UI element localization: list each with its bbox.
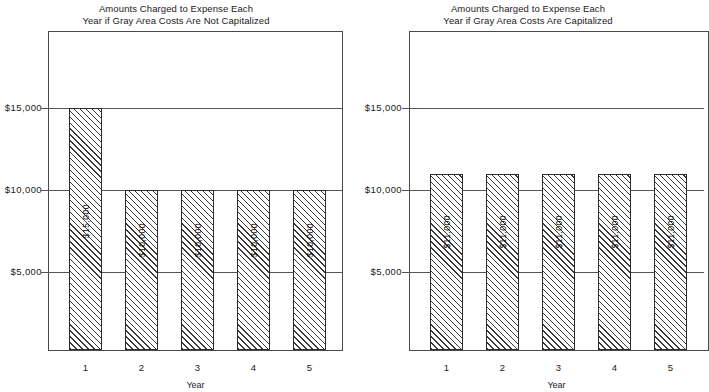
chart-title-right: Amounts Charged to Expense Each Year if … <box>352 3 704 27</box>
y-tick-mark-15000-left <box>41 108 48 109</box>
bar-value-label-year-1-right: $11,000 <box>442 215 452 249</box>
x-tick-label-2-right: 2 <box>482 363 523 373</box>
chart-panel-capitalized: Amounts Charged to Expense Each Year if … <box>352 0 704 392</box>
bar-year-4-right: $11,000 <box>598 174 631 350</box>
y-tick-label-15000-right: $15,000 <box>360 103 402 113</box>
y-tick-mark-15000-right <box>402 108 409 109</box>
bar-year-4-left: $10,000 <box>237 190 270 350</box>
bar-year-2-left: $10,000 <box>125 190 158 350</box>
x-tick-label-4-right: 4 <box>594 363 635 373</box>
y-tick-label-10000-left: $10,000 <box>0 185 42 195</box>
x-tick-label-1-left: 1 <box>65 363 106 373</box>
bar-year-3-right: $11,000 <box>542 174 575 350</box>
y-tick-mark-10000-right <box>402 190 409 191</box>
x-axis-title-right: Year <box>409 380 704 390</box>
x-tick-label-5-right: 5 <box>650 363 691 373</box>
bar-year-5-right: $11,000 <box>654 174 687 350</box>
x-tick-label-2-left: 2 <box>121 363 162 373</box>
chart-title-right-line2: Year if Gray Area Costs Are Capitalized <box>352 15 704 27</box>
x-axis-title-left: Year <box>48 380 343 390</box>
x-tick-label-1-right: 1 <box>426 363 467 373</box>
x-tick-label-3-right: 3 <box>538 363 579 373</box>
y-tick-mark-10000-left <box>41 190 48 191</box>
bar-year-5-left: $10,000 <box>293 190 326 350</box>
y-tick-label-15000-left: $15,000 <box>0 103 42 113</box>
chart-panel-not-capitalized: Amounts Charged to Expense Each Year if … <box>0 0 352 392</box>
chart-title-right-line1: Amounts Charged to Expense Each <box>352 3 704 15</box>
x-tick-label-4-left: 4 <box>233 363 274 373</box>
x-tick-label-3-left: 3 <box>177 363 218 373</box>
bar-year-1-right: $11,000 <box>430 174 463 350</box>
x-tick-label-5-left: 5 <box>289 363 330 373</box>
bar-year-3-left: $10,000 <box>181 190 214 350</box>
chart-title-left-line1: Amounts Charged to Expense Each <box>0 3 352 15</box>
y-tick-label-5000-right: $5,000 <box>360 267 402 277</box>
bar-value-label-year-1-left: $15,000 <box>81 204 91 238</box>
y-tick-label-5000-left: $5,000 <box>0 267 42 277</box>
bar-value-label-year-2-left: $10,000 <box>137 223 147 257</box>
bar-value-label-year-4-right: $11,000 <box>610 215 620 249</box>
bar-year-1-left: $15,000 <box>69 108 102 350</box>
bar-value-label-year-3-right: $11,000 <box>554 215 564 249</box>
y-tick-mark-5000-left <box>41 272 48 273</box>
bar-value-label-year-4-left: $10,000 <box>249 223 259 257</box>
bar-year-2-right: $11,000 <box>486 174 519 350</box>
y-tick-mark-5000-right <box>402 272 409 273</box>
bar-value-label-year-5-right: $11,000 <box>666 215 676 249</box>
chart-title-left: Amounts Charged to Expense Each Year if … <box>0 3 352 27</box>
bar-value-label-year-5-left: $10,000 <box>305 223 315 257</box>
gridline-15000-right <box>409 108 704 109</box>
bar-value-label-year-3-left: $10,000 <box>193 223 203 257</box>
bar-value-label-year-2-right: $11,000 <box>498 215 508 249</box>
chart-title-left-line2: Year if Gray Area Costs Are Not Capitali… <box>0 15 352 27</box>
y-tick-label-10000-right: $10,000 <box>360 185 402 195</box>
